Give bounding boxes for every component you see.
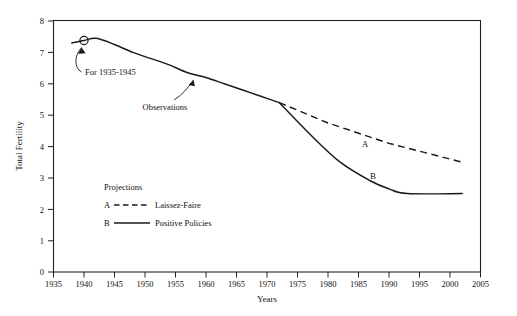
x-tick-label: 1995 [411,279,428,289]
x-tick-label: 1965 [228,279,245,289]
y-tick-label: 8 [40,16,44,26]
legend-entry-b[interactable]: B Positive Policies [104,218,211,228]
x-tick-label: 1970 [259,279,276,289]
legend-letter-b: B [104,218,110,228]
y-tick-label: 3 [40,173,44,183]
y-tick-label: 0 [40,267,44,277]
y-tick-label: 7 [40,48,44,58]
y-tick-label: 5 [40,110,44,120]
series-letter-b: B [370,171,376,181]
x-tick-label: 1950 [137,279,154,289]
legend-title: Projections [104,182,142,192]
x-tick-label: 1955 [167,279,184,289]
x-tick-label: 2000 [442,279,459,289]
fertility-projection-chart: 8 7 6 5 4 3 2 1 0 Total Fertility [0,0,517,316]
legend-entry-a[interactable]: A Laissez-Faire [104,200,201,210]
legend-label-positive-policies: Positive Policies [155,218,211,228]
y-axis-title: Total Fertility [14,121,24,171]
legend-letter-a: A [104,200,111,210]
x-axis-tick-labels: 1935 1940 1945 1950 1955 1960 1965 1970 … [45,279,489,289]
annotation-leader-observations [174,80,195,100]
series-laissez-faire-line [279,103,462,163]
y-axis-ticks [48,21,54,272]
y-axis-tick-labels: 8 7 6 5 4 3 2 1 0 [40,16,45,277]
legend: Projections A Laissez-Faire B Positive P… [104,182,211,228]
x-axis-title: Years [257,294,278,304]
y-tick-label: 6 [40,79,44,89]
x-tick-label: 2005 [472,279,489,289]
x-tick-label: 1940 [76,279,93,289]
x-tick-label: 1985 [350,279,367,289]
chart-svg: 8 7 6 5 4 3 2 1 0 Total Fertility [0,0,517,316]
annotation-for-1935-1945: For 1935-1945 [85,67,136,77]
x-tick-label: 1990 [381,279,398,289]
y-tick-label: 4 [40,142,45,152]
y-tick-label: 1 [40,236,44,246]
plot-frame [54,21,481,273]
x-tick-label: 1935 [45,279,62,289]
legend-label-laissez-faire: Laissez-Faire [155,200,201,210]
y-tick-label: 2 [40,205,44,215]
x-tick-label: 1975 [289,279,306,289]
annotation-observations: Observations [143,102,188,112]
x-tick-label: 1960 [198,279,215,289]
x-tick-label: 1945 [106,279,123,289]
series-letter-a: A [362,139,369,149]
x-axis-ticks [54,272,481,278]
x-tick-label: 1980 [320,279,337,289]
